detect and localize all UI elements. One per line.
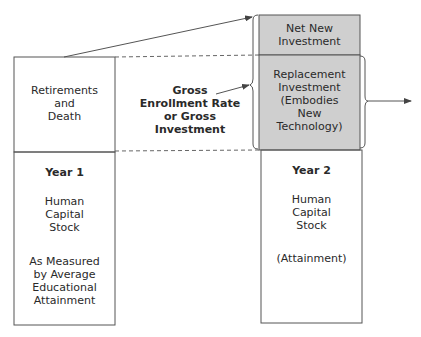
year2-measure-label: (Attainment) [261, 252, 362, 265]
year2-title: Year 2 [261, 164, 362, 177]
dashed-connector-top [115, 55, 259, 57]
right-bracket [360, 56, 368, 148]
net-new-investment-label: Net New Investment [259, 22, 360, 48]
retirements-label: Retirements and Death [14, 84, 115, 123]
year1-title: Year 1 [14, 166, 115, 179]
left-bracket [250, 15, 258, 149]
year2-stock-label: Human Capital Stock [261, 193, 362, 232]
gross-enrollment-label: Gross Enrollment Rate or Gross Investmen… [135, 84, 245, 136]
dashed-connector-bottom [115, 150, 259, 151]
year1-stock-label: Human Capital Stock [14, 195, 115, 234]
year1-measure-label: As Measured by Average Educational Attai… [14, 255, 115, 307]
arrow-to-net-new [64, 17, 252, 57]
replacement-investment-label: Replacement Investment (Embodies New Tec… [259, 68, 360, 133]
